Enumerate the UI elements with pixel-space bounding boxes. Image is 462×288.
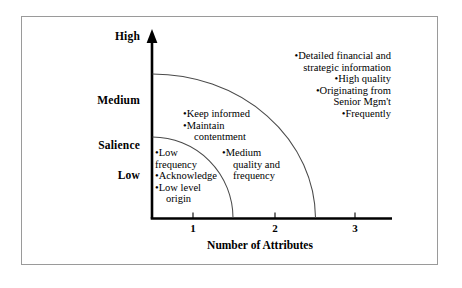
zone-inner-line-4: •Low level — [155, 182, 235, 194]
x-axis-title: Number of Attributes — [150, 239, 370, 251]
zone-inner-annotation: •Low frequency •Acknowledge •Low level o… — [155, 147, 235, 205]
zone-outer-line-2: strategic information — [249, 62, 391, 74]
zone-outer-line-4: •Originating from — [249, 85, 391, 97]
y-tick-high: High — [60, 30, 140, 42]
zone-middle-upper-line-3: contentment — [183, 131, 293, 143]
zone-inner-line-2: frequency — [155, 159, 235, 171]
y-tick-medium: Medium — [50, 94, 140, 106]
zone-middle-lower-annotation: •Medium quality and frequency — [222, 147, 312, 182]
x-axis — [151, 213, 392, 219]
zone-middle-lower-line-3: frequency — [222, 170, 312, 182]
zone-outer-line-1: •Detailed financial and — [249, 50, 391, 62]
figure-canvas: High Medium Low Salience 1 2 3 Number of… — [0, 0, 462, 288]
zone-middle-lower-line-2: quality and — [222, 159, 312, 171]
zone-inner-line-5: origin — [155, 193, 235, 205]
zone-inner-line-3: •Acknowledge — [155, 170, 235, 182]
y-axis-title: Salience — [40, 139, 140, 151]
zone-middle-lower-line-1: •Medium — [222, 147, 312, 159]
x-tick-2: 2 — [260, 222, 290, 234]
zone-middle-upper-annotation: •Keep informed •Maintain contentment — [183, 108, 293, 143]
y-tick-low: Low — [60, 169, 140, 181]
zone-middle-upper-line-1: •Keep informed — [183, 108, 293, 120]
x-tick-1: 1 — [178, 222, 208, 234]
x-tick-3: 3 — [340, 222, 370, 234]
zone-inner-line-1: •Low — [155, 147, 235, 159]
zone-outer-line-5: Senior Mgm't — [249, 96, 391, 108]
zone-outer-line-3: •High quality — [249, 73, 391, 85]
zone-middle-upper-line-2: •Maintain — [183, 120, 293, 132]
